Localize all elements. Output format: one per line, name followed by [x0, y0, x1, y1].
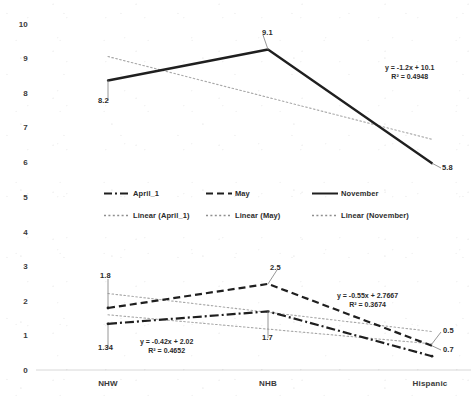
legend-item-linear-may[interactable]: Linear (May) — [206, 211, 280, 220]
marker-may-nhw — [107, 307, 110, 310]
legend-item-november[interactable]: November — [312, 189, 378, 198]
dotted-line-icon — [104, 212, 130, 219]
may-equation-line2: R² = 0.3674 — [337, 300, 398, 309]
dotted-line-icon — [206, 212, 232, 219]
may-equation: y = -0.55x + 2.7667 R² = 0.3674 — [337, 291, 398, 309]
legend-label-linear-november: Linear (November) — [341, 211, 409, 220]
legend-label-linear-may: Linear (May) — [235, 211, 280, 220]
legend-label-april-1: April_1 — [133, 189, 159, 198]
legend-label-linear-april-1: Linear (April_1) — [133, 211, 190, 220]
data-label-november-hispanic: 5.8 — [442, 163, 453, 172]
november-equation-line2: R² = 0.4948 — [385, 72, 434, 81]
legend-item-linear-november[interactable]: Linear (November) — [312, 211, 409, 220]
leader-november-nhb — [263, 35, 268, 50]
series-november — [108, 50, 432, 164]
april-equation-line1: y = -0.42x + 2.02 — [140, 337, 193, 346]
leader-may-hispanic — [432, 346, 441, 350]
data-label-april-nhw: 1.34 — [98, 343, 113, 352]
plot-area — [0, 0, 471, 405]
line-chart: 10 9 8 7 6 5 4 3 2 1 0 NHW NHB Hispanic — [0, 0, 471, 405]
trendline-november — [108, 57, 432, 140]
data-label-may-nhb: 2.5 — [270, 263, 281, 272]
data-label-april-nhb: 1.7 — [262, 333, 273, 342]
legend-item-april-1[interactable]: April_1 — [104, 189, 159, 198]
data-label-november-nhb: 9.1 — [262, 28, 273, 37]
dash-dot-line-icon — [104, 190, 130, 197]
april-equation: y = -0.42x + 2.02 R² = 0.4652 — [140, 337, 193, 355]
legend-item-linear-april-1[interactable]: Linear (April_1) — [104, 211, 190, 220]
data-label-november-nhw: 8.2 — [98, 96, 109, 105]
april-equation-line2: R² = 0.4652 — [140, 346, 193, 355]
november-equation: y = -1.2x + 10.1 R² = 0.4948 — [385, 63, 434, 81]
data-label-may-hispanic: 0.7 — [443, 345, 454, 354]
solid-line-icon — [312, 190, 338, 197]
data-label-may-nhw: 1.8 — [100, 271, 111, 280]
leader-may-nhb — [268, 270, 277, 284]
marker-april-hispanic — [431, 355, 434, 358]
legend-item-may[interactable]: May — [206, 189, 250, 198]
may-equation-line1: y = -0.55x + 2.7667 — [337, 291, 398, 300]
dotted-line-icon — [312, 212, 338, 219]
leader-trend-hispanic — [432, 332, 441, 344]
legend-label-may: May — [235, 189, 250, 198]
marker-april-nhw — [107, 322, 110, 325]
november-equation-line1: y = -1.2x + 10.1 — [385, 63, 434, 72]
dashed-line-icon — [206, 190, 232, 197]
leader-november-hispanic — [432, 163, 441, 168]
legend-label-november: November — [341, 189, 378, 198]
data-label-trend-hispanic: 0.5 — [443, 326, 454, 335]
